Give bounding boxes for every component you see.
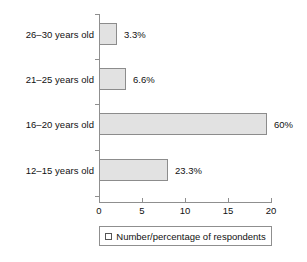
y-axis-tick-1 (95, 59, 99, 60)
x-axis-tick-10 (185, 198, 186, 202)
x-axis-label-10: 10 (170, 205, 200, 216)
x-axis-tick-0 (99, 198, 100, 202)
legend-label: Number/percentage of respondents (116, 231, 265, 242)
bar-21-25 (99, 68, 126, 90)
y-axis-tick-top (95, 14, 99, 15)
y-axis-tick-3 (95, 150, 99, 151)
bar-26-30 (99, 23, 117, 45)
y-axis-line (99, 14, 100, 202)
category-label-21-25: 21–25 years old (0, 74, 94, 85)
y-axis-tick-2 (95, 104, 99, 105)
x-axis-line (99, 202, 272, 203)
bar-value-21-25: 6.6% (133, 74, 155, 85)
bar-16-20 (99, 113, 267, 135)
x-axis-label-0: 0 (84, 205, 114, 216)
x-axis-label-20: 20 (256, 205, 286, 216)
legend-swatch-icon (105, 233, 112, 240)
x-axis-label-5: 5 (127, 205, 157, 216)
category-label-12-15: 12–15 years old (0, 165, 94, 176)
category-label-26-30: 26–30 years old (0, 29, 94, 40)
bar-chart: 26–30 years old 21–25 years old 16–20 ye… (0, 0, 307, 262)
x-axis-tick-5 (142, 198, 143, 202)
x-axis-tick-20 (271, 198, 272, 202)
bar-value-26-30: 3.3% (124, 29, 146, 40)
chart-legend: Number/percentage of respondents (99, 226, 272, 246)
bar-value-12-15: 23.3% (175, 165, 202, 176)
y-axis-tick-4 (95, 196, 99, 197)
category-label-16-20: 16–20 years old (0, 119, 94, 130)
bar-value-16-20: 60% (274, 119, 293, 130)
x-axis-label-15: 15 (213, 205, 243, 216)
x-axis-tick-15 (228, 198, 229, 202)
bar-12-15 (99, 159, 168, 181)
